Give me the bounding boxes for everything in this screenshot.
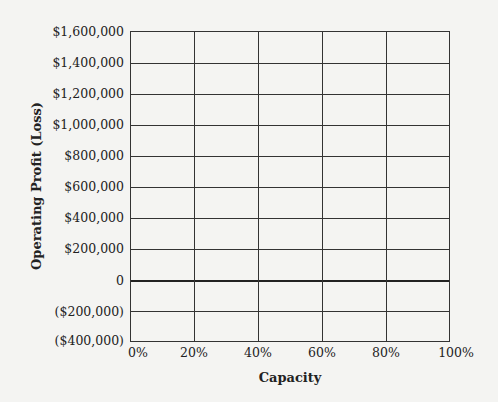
y-tick: $1,600,000	[52, 24, 124, 39]
y-tick: $600,000	[64, 179, 124, 194]
gridline-horizontal	[131, 125, 449, 126]
gridline-horizontal	[131, 94, 449, 95]
gridline-vertical	[322, 32, 323, 341]
x-tick: 80%	[372, 345, 400, 360]
y-tick: ($200,000)	[55, 304, 124, 319]
gridline-horizontal	[131, 311, 449, 312]
y-tick: $1,000,000	[52, 117, 124, 132]
x-axis-label: Capacity	[259, 370, 322, 385]
x-tick: 0%	[128, 345, 148, 360]
y-tick: $200,000	[64, 241, 124, 256]
y-axis-label: Operating Profit (Loss)	[29, 102, 44, 270]
gridline-horizontal	[131, 156, 449, 157]
zero-line	[131, 280, 449, 282]
y-tick: $1,200,000	[52, 86, 124, 101]
y-tick: $400,000	[64, 210, 124, 225]
gridline-horizontal	[131, 63, 449, 64]
y-tick: 0	[116, 273, 124, 288]
plot-area	[130, 31, 450, 342]
gridline-horizontal	[131, 187, 449, 188]
x-tick: 20%	[180, 345, 208, 360]
gridline-vertical	[386, 32, 387, 341]
gridline-horizontal	[131, 218, 449, 219]
y-tick: ($400,000)	[55, 333, 124, 348]
gridline-horizontal	[131, 249, 449, 250]
x-tick: 60%	[308, 345, 336, 360]
x-tick: 100%	[438, 345, 474, 360]
gridline-vertical	[258, 32, 259, 341]
gridline-vertical	[194, 32, 195, 341]
x-tick: 40%	[244, 345, 272, 360]
y-tick: $1,400,000	[52, 55, 124, 70]
y-tick: $800,000	[64, 148, 124, 163]
